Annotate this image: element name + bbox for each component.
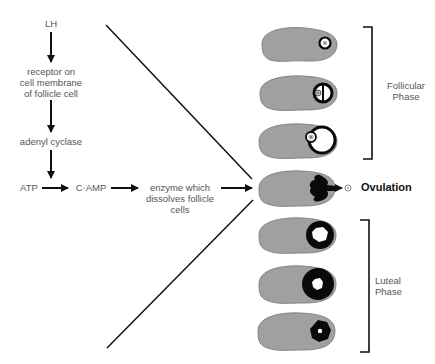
upper-diagonal-line — [106, 25, 252, 179]
label-receptor: receptor on cell membrane of follicle ce… — [8, 66, 94, 99]
follicular-bracket — [363, 27, 372, 159]
luteal-bracket — [360, 220, 369, 352]
ovary-2 — [260, 76, 337, 111]
label-adenyl-cyclase: adenyl cyclase — [8, 136, 94, 147]
pathway-arrows — [42, 32, 252, 188]
ovary-5 — [259, 218, 336, 254]
ovary-1 — [262, 28, 337, 62]
label-camp: C·AMP — [72, 182, 110, 193]
ovary-6 — [259, 266, 336, 304]
label-atp: ATP — [18, 182, 40, 193]
label-luteal-phase: Luteal Phase — [375, 275, 411, 297]
label-follicular-phase: Follicular Phase — [380, 80, 432, 102]
label-ovulation: Ovulation — [361, 181, 412, 193]
label-lh: LH — [40, 18, 62, 29]
label-enzyme: enzyme which dissolves follicle cells — [138, 182, 222, 215]
ovary-3 — [259, 124, 337, 159]
lower-diagonal-line — [107, 200, 253, 348]
ovary-4-ovulation — [259, 171, 351, 207]
ovary-7 — [258, 313, 335, 351]
